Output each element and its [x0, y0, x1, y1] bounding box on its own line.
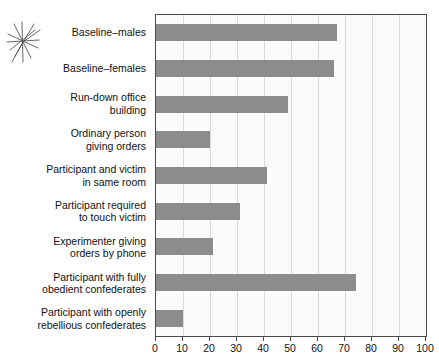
- x-tick-mark: [209, 337, 210, 341]
- bar-slot: [156, 122, 426, 158]
- category-label-line: orders by phone: [70, 247, 146, 260]
- category-label-2: Run-down office building: [0, 86, 152, 122]
- x-tick-label: 10: [176, 342, 188, 354]
- category-label-8: Participant with openly rebellious confe…: [0, 301, 152, 337]
- x-tick-mark: [398, 337, 399, 341]
- bar-series: [156, 15, 426, 336]
- x-tick-label: 20: [203, 342, 215, 354]
- bar[interactable]: [156, 96, 288, 113]
- x-tick-mark: [236, 337, 237, 341]
- x-tick-label: 100: [416, 342, 434, 354]
- gridline-100: [426, 15, 427, 336]
- bar[interactable]: [156, 203, 240, 220]
- x-tick-label: 40: [257, 342, 269, 354]
- category-label-7: Participant with fully obedient confeder…: [0, 265, 152, 301]
- bar-slot: [156, 229, 426, 265]
- bar-slot: [156, 265, 426, 301]
- category-label-line: Participant with fully: [53, 271, 146, 284]
- bar-slot: [156, 158, 426, 194]
- bar-slot: [156, 300, 426, 336]
- category-label-3: Ordinary person giving orders: [0, 122, 152, 158]
- category-label-0: Baseline–males: [0, 14, 152, 50]
- x-tick-label: 90: [392, 342, 404, 354]
- x-tick-mark: [155, 337, 156, 341]
- bar-chart-figure: Baseline–males Baseline–females Run-down…: [0, 0, 439, 362]
- x-tick-label: 30: [230, 342, 242, 354]
- category-label-5: Participant required to touch victim: [0, 193, 152, 229]
- category-label-line: Baseline–males: [72, 26, 146, 39]
- bar-slot: [156, 86, 426, 122]
- category-label-line: building: [110, 104, 146, 117]
- bar[interactable]: [156, 274, 356, 291]
- x-axis: 0102030405060708090100: [155, 337, 427, 361]
- x-tick-label: 80: [365, 342, 377, 354]
- category-label-line: Ordinary person: [71, 127, 146, 140]
- category-label-line: Run-down office: [70, 91, 146, 104]
- x-tick-mark: [263, 337, 264, 341]
- category-label-1: Baseline–females: [0, 50, 152, 86]
- bar[interactable]: [156, 131, 210, 148]
- bar[interactable]: [156, 24, 337, 41]
- x-tick-label: 0: [152, 342, 158, 354]
- bar[interactable]: [156, 167, 267, 184]
- x-tick-mark: [317, 337, 318, 341]
- category-label-line: Participant with openly: [41, 306, 146, 319]
- category-labels: Baseline–males Baseline–females Run-down…: [0, 14, 152, 337]
- x-tick-mark: [425, 337, 426, 341]
- x-tick-label: 50: [284, 342, 296, 354]
- category-label-6: Experimenter giving orders by phone: [0, 229, 152, 265]
- bar[interactable]: [156, 238, 213, 255]
- x-tick-mark: [371, 337, 372, 341]
- x-tick-label: 60: [311, 342, 323, 354]
- bar-slot: [156, 51, 426, 87]
- x-tick-mark: [182, 337, 183, 341]
- category-label-line: Baseline–females: [63, 62, 146, 75]
- category-label-line: Participant and victim: [46, 163, 146, 176]
- category-label-4: Participant and victim in same room: [0, 158, 152, 194]
- bar[interactable]: [156, 60, 334, 77]
- plot-area: [155, 14, 427, 337]
- bar-slot: [156, 193, 426, 229]
- bar-slot: [156, 15, 426, 51]
- x-tick-mark: [290, 337, 291, 341]
- category-label-line: in same room: [82, 176, 146, 189]
- category-label-line: Participant required: [55, 199, 146, 212]
- bar[interactable]: [156, 310, 183, 327]
- category-label-line: giving orders: [86, 140, 146, 153]
- category-label-line: rebellious confederates: [37, 319, 146, 332]
- x-tick-mark: [344, 337, 345, 341]
- category-label-line: Experimenter giving: [53, 235, 146, 248]
- category-label-line: to touch victim: [79, 211, 146, 224]
- x-tick-label: 70: [338, 342, 350, 354]
- category-label-line: obedient confederates: [42, 283, 146, 296]
